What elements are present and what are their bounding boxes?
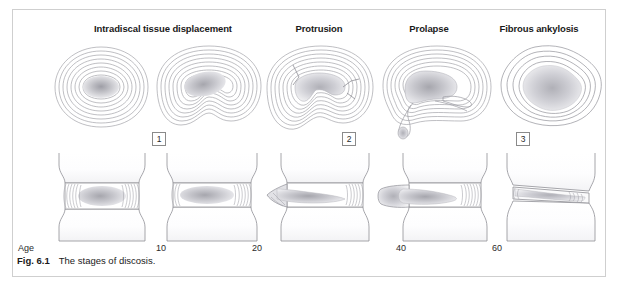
stage-marker-2: 2 [342,132,356,146]
caption-text: The stages of discosis. [59,255,156,266]
age-tick-20: 20 [252,243,262,253]
transverse-disc-protrusion [259,41,383,141]
lateral-segment-protrusion [259,151,387,243]
caption-number: Fig. 6.1 [17,255,50,266]
lateral-segment-prolapse [373,151,501,243]
stage-marker-1: 1 [152,132,166,146]
transverse-disc-prolapse [373,41,503,147]
age-axis-label: Age [18,243,34,253]
transverse-disc-ankylosis [493,41,609,135]
stage-marker-3: 3 [516,132,530,146]
figure-discosis-stages: Intradiscal tissue displacement Protrusi… [0,0,618,293]
age-tick-10: 10 [156,243,166,253]
column-heading-fibrous-ankylosis: Fibrous ankylosis [499,23,578,34]
transverse-disc-normal [45,41,157,133]
figure-caption: Fig. 6.1The stages of discosis. [17,255,155,266]
transverse-disc-displaced [151,41,273,135]
column-heading-prolapse: Prolapse [409,23,448,34]
column-heading-intradiscal-tissue-displacement: Intradiscal tissue displacement [94,23,232,34]
lateral-segment-ankylosis [489,151,609,243]
lateral-segment-normal [45,151,157,243]
age-tick-40: 40 [396,243,406,253]
age-tick-60: 60 [492,243,502,253]
column-heading-protrusion: Protrusion [295,23,342,34]
lateral-segment-displaced [151,151,273,243]
figure-frame: Intradiscal tissue displacement Protrusi… [12,9,606,277]
